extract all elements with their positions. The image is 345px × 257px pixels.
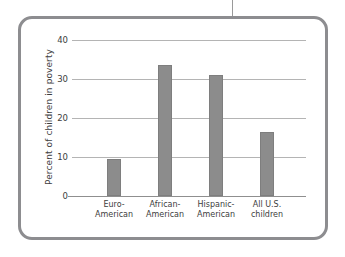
bar-chart: Percent of children in poverty 40 30 20 …	[0, 0, 345, 257]
bar-euro-american	[107, 159, 121, 196]
bar-hispanic-american	[209, 75, 223, 196]
y-tick-label-10: 10	[46, 152, 68, 162]
category-label-line-2: children	[236, 210, 298, 220]
y-tick-label-20: 20	[46, 113, 68, 123]
bar-african-american	[158, 65, 172, 196]
bar-all-us-children	[260, 132, 274, 196]
x-axis-baseline	[68, 196, 306, 197]
gridline-40	[72, 40, 306, 41]
y-tick-label-30: 30	[46, 74, 68, 84]
y-tick-label-0: 0	[46, 191, 68, 201]
category-label-line-1: All U.S.	[236, 200, 298, 210]
category-label-all-us-children: All U.S. children	[236, 200, 298, 220]
gridline-20	[72, 118, 306, 119]
gridline-30	[72, 79, 306, 80]
y-tick-label-40: 40	[46, 35, 68, 45]
